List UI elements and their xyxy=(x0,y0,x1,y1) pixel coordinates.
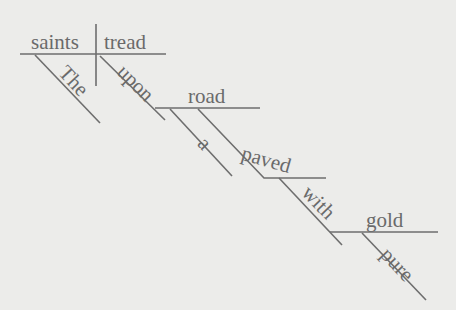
sentence-diagram: saints tread The upon road a paved with … xyxy=(0,0,456,310)
word-subject: saints xyxy=(31,32,79,53)
word-object-1: road xyxy=(188,86,225,107)
word-verb: tread xyxy=(104,32,146,53)
word-object-2: gold xyxy=(366,210,403,231)
